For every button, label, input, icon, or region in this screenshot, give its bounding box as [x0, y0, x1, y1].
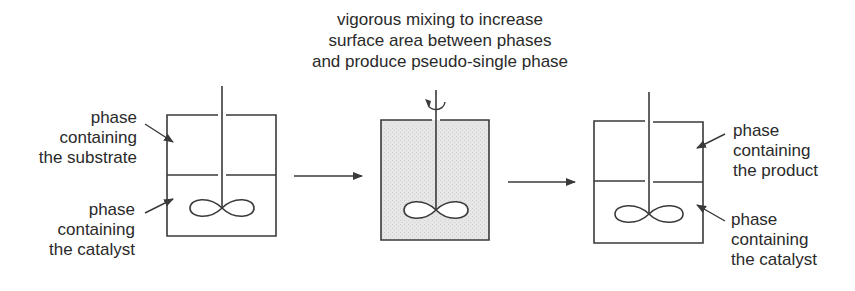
label-line: the product — [733, 161, 818, 181]
vessel-1-label-arrows — [145, 124, 173, 213]
vessel-1 — [167, 86, 276, 236]
label-line: containing — [733, 141, 818, 161]
label-line: phase — [733, 121, 818, 141]
mixing-annotation: vigorous mixing to increase surface area… — [270, 9, 610, 72]
label-line: phase — [0, 200, 135, 220]
label-line: phase — [0, 108, 137, 128]
label-line: containing — [731, 230, 817, 250]
catalyst-phase-label-2: phase containing the catalyst — [731, 210, 817, 270]
label-line: containing — [0, 128, 137, 148]
pointer-arrow-icon — [145, 199, 173, 213]
label-line: the substrate — [0, 148, 137, 168]
substrate-phase-label: phase containing the substrate — [0, 108, 137, 168]
label-line: phase — [731, 210, 817, 230]
vessel-3 — [594, 92, 703, 243]
label-line: the catalyst — [731, 250, 817, 270]
annotation-line: vigorous mixing to increase — [270, 9, 610, 30]
vessel-2 — [381, 90, 489, 240]
pointer-arrow-icon — [697, 205, 725, 221]
label-line: containing — [0, 220, 135, 240]
pointer-arrow-icon — [145, 124, 173, 142]
pointer-arrow-icon — [697, 134, 725, 148]
vessel-3-label-arrows — [697, 134, 725, 221]
annotation-line: surface area between phases — [270, 30, 610, 51]
annotation-line: and produce pseudo-single phase — [270, 51, 610, 72]
label-line: the catalyst — [0, 240, 135, 260]
product-phase-label: phase containing the product — [733, 121, 818, 181]
catalyst-phase-label-1: phase containing the catalyst — [0, 200, 135, 260]
